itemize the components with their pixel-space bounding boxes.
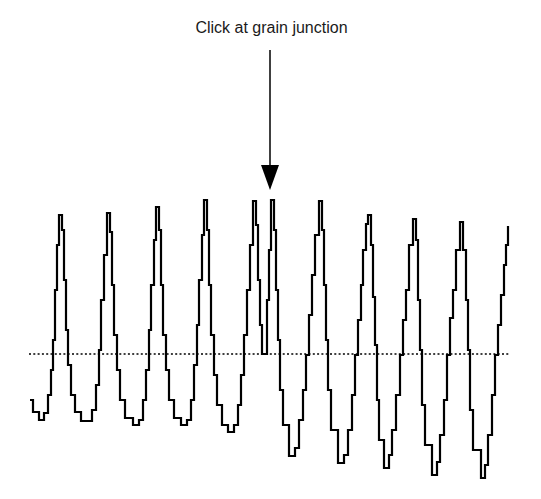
annotation-arrow-head-icon	[261, 165, 279, 190]
waveform-chart	[0, 0, 541, 499]
signal-trace	[30, 200, 508, 478]
